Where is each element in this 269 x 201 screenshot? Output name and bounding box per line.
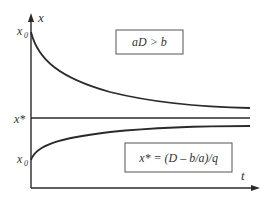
- phase-diagram: x t x 0 x* x 0 aD > b x* = (D – b/a)/q: [0, 0, 269, 201]
- svg-text:x: x: [16, 24, 23, 38]
- x-axis: [31, 185, 260, 191]
- equilibrium-formula: x* = (D – b/a)/q: [138, 151, 218, 165]
- xstar-label: x*: [13, 112, 25, 126]
- x0-top-label: x 0: [16, 24, 28, 40]
- condition-box: aD > b: [116, 30, 183, 54]
- x0-bottom-label: x 0: [16, 152, 28, 168]
- svg-text:0: 0: [24, 159, 28, 168]
- condition-text: aD > b: [132, 35, 167, 49]
- svg-text:x: x: [16, 152, 23, 166]
- y-axis-label: x: [37, 10, 44, 25]
- equilibrium-box: x* = (D – b/a)/q: [125, 143, 232, 172]
- x-axis-arrow-icon: [251, 185, 260, 191]
- x-axis-label: t: [241, 168, 245, 183]
- svg-text:0: 0: [24, 31, 28, 40]
- y-axis-arrow-icon: [28, 13, 34, 22]
